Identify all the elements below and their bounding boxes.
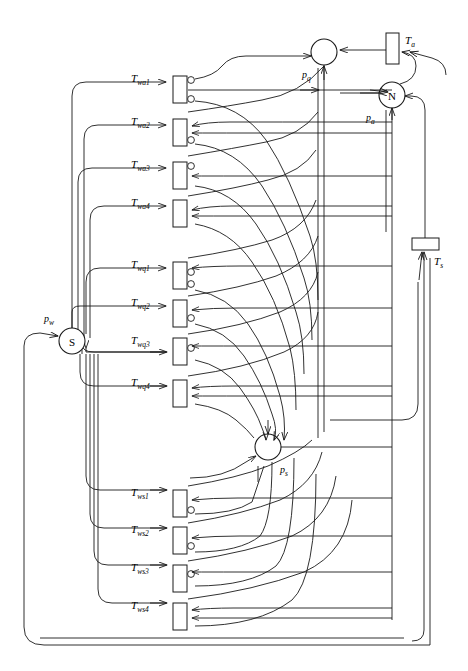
transition-Tws3-label: Tws3 — [131, 561, 149, 576]
transition-Tws4-label: Tws4 — [131, 599, 149, 614]
place-pa: N pa — [365, 82, 405, 126]
transition-Twq3: Twq3 — [131, 272, 392, 440]
transition-Twa2: Twa2 — [131, 66, 392, 340]
inhibitor-dot — [188, 137, 195, 144]
arcs-from-pw-to-transitions — [72, 82, 166, 603]
inhibitor-dot — [188, 507, 195, 514]
transition-group-ws: Tws1 Tws2 Tws3 — [131, 440, 392, 630]
petri-net-canvas: pq N pa S pw ps Ta — [0, 0, 468, 671]
transition-Twq2: Twq2 — [131, 236, 392, 440]
transition-Twq2-label: Twq2 — [131, 296, 150, 311]
inhibitor-dot — [188, 269, 195, 276]
transition-Twa2-label: Twa2 — [131, 115, 150, 130]
inhibitor-dot — [188, 543, 195, 550]
inhibitor-dot — [188, 315, 195, 322]
transition-Tws3: Tws3 — [131, 458, 392, 592]
transition-Ts: Ts — [330, 238, 443, 641]
transition-Tws2: Tws2 — [131, 452, 392, 554]
transition-Twq1: Twq1 — [131, 200, 392, 440]
arcs-pw-down-arrowheads — [150, 352, 167, 603]
right-trunk-lines — [318, 52, 446, 645]
transition-Twa3-label: Twa3 — [131, 158, 150, 173]
transition-Twq1-label: Twq1 — [131, 258, 150, 273]
place-pw: S pw — [43, 313, 85, 354]
place-pw-marking: S — [69, 336, 75, 348]
transition-Tws2-label: Tws2 — [131, 523, 149, 538]
outer-return-loop-left — [24, 333, 430, 645]
transition-Twa4-label: Twa4 — [131, 196, 150, 211]
inhibitor-dot — [188, 163, 195, 170]
transition-Tws4: Tws4 — [131, 474, 392, 630]
transition-Ta: Ta — [340, 33, 416, 84]
transition-Twa1-label: Twa1 — [131, 72, 150, 87]
transition-Twq4-label: Twq4 — [131, 376, 150, 391]
transition-Twq3-label: Twq3 — [131, 334, 150, 349]
transition-Twq4: Twq4 — [131, 312, 392, 438]
transition-Twa4: Twa4 — [131, 150, 392, 410]
place-pq: pq — [301, 39, 337, 83]
transition-group-wa: Twa1 Twa2 — [131, 56, 392, 410]
place-ps-label: ps — [279, 464, 288, 478]
inhibitor-dot — [188, 281, 195, 288]
petri-net-figure: pq N pa S pw ps Ta — [0, 0, 468, 671]
arcs-into-ps — [190, 420, 392, 482]
place-pa-label: pa — [365, 112, 375, 126]
place-pa-marking: N — [388, 90, 396, 102]
transition-Ts-label: Ts — [434, 255, 443, 270]
transition-Tws1-label: Tws1 — [131, 486, 149, 501]
place-pw-label: pw — [43, 313, 54, 327]
transition-Ta-label: Ta — [405, 34, 415, 49]
transition-group-wq: Twq1 Twq2 Twq3 — [131, 200, 392, 440]
inhibitor-dot — [188, 96, 195, 103]
inhibitor-dot — [188, 77, 195, 84]
